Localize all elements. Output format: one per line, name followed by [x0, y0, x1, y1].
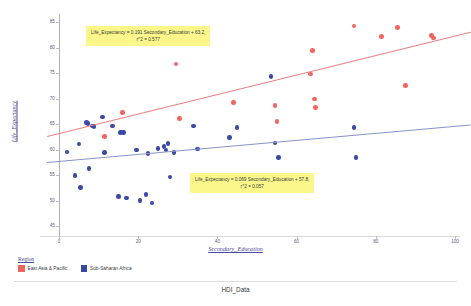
- legend-label: East Asia & Pacific: [28, 266, 68, 271]
- legend-divider: [14, 281, 457, 282]
- x-axis-title: Secondary_Education: [0, 245, 471, 252]
- y-tick-label: 60: [33, 147, 55, 152]
- y-tick-label: 80: [33, 45, 55, 50]
- x-tick-label: 0: [44, 239, 74, 244]
- legend: Region East Asia & PacificSub-Saharan Af…: [18, 256, 141, 272]
- scatter-point: [78, 185, 83, 190]
- x-tick-mark: [217, 236, 218, 239]
- y-tick-mark: [56, 150, 59, 151]
- scatter-point: [403, 83, 408, 88]
- x-axis-line: [40, 236, 460, 237]
- scatter-point: [168, 175, 173, 180]
- scatter-point: [77, 142, 82, 147]
- scatter-point: [87, 166, 92, 171]
- legend-swatch: [18, 265, 25, 272]
- scatter-point: [100, 115, 105, 120]
- y-tick-label: 55: [33, 172, 55, 177]
- scatter-point: [312, 97, 317, 102]
- x-tick-label: 20: [123, 239, 153, 244]
- chart-caption: HDI_Data: [0, 286, 471, 293]
- scatter-point: [313, 105, 318, 110]
- y-tick-mark: [56, 175, 59, 176]
- legend-title: Region: [18, 256, 141, 262]
- scatter-point: [166, 141, 171, 146]
- chart-root: 858075706560555045 020406080100 Life_Exp…: [0, 0, 471, 306]
- y-tick-label: 85: [33, 19, 55, 24]
- scatter-point: [379, 34, 384, 39]
- scatter-point: [354, 155, 359, 160]
- scatter-point: [395, 25, 400, 30]
- x-tick-mark: [59, 236, 60, 239]
- scatter-point: [352, 125, 357, 130]
- x-tick-label: 40: [202, 239, 232, 244]
- y-tick-label: 50: [33, 198, 55, 203]
- scatter-point: [177, 116, 182, 121]
- scatter-point: [273, 103, 278, 108]
- x-tick-label: 100: [440, 239, 470, 244]
- y-tick-label: 75: [33, 70, 55, 75]
- scatter-point: [134, 148, 139, 153]
- y-tick-mark: [56, 201, 59, 202]
- scatter-point: [120, 110, 125, 115]
- scatter-point: [156, 146, 161, 151]
- x-tick-mark: [455, 236, 456, 239]
- y-tick-label: 65: [33, 121, 55, 126]
- scatter-point: [121, 130, 126, 135]
- scatter-point: [144, 192, 149, 197]
- legend-swatch: [81, 265, 88, 272]
- y-tick-mark: [56, 226, 59, 227]
- scatter-point: [110, 124, 115, 129]
- scatter-point: [102, 150, 107, 155]
- y-tick-label: 70: [33, 96, 55, 101]
- scatter-point: [150, 201, 155, 206]
- annotation-blue-line2: r^2 = 0.057: [195, 183, 309, 190]
- y-axis-line: [59, 14, 60, 236]
- scatter-point: [102, 134, 107, 139]
- scatter-point: [174, 62, 179, 67]
- annotation-red-line1: Life_Expectancy = 0.191 Secondary_Educat…: [91, 29, 205, 36]
- scatter-point: [138, 198, 143, 203]
- scatter-point: [73, 173, 78, 178]
- y-tick-mark: [56, 48, 59, 49]
- annotation-box-red: Life_Expectancy = 0.191 Secondary_Educat…: [86, 26, 210, 46]
- x-tick-label: 60: [282, 239, 312, 244]
- scatter-point: [227, 135, 232, 140]
- scatter-point: [276, 155, 281, 160]
- annotation-red-line2: r^2 = 0.577: [91, 36, 205, 43]
- x-tick-mark: [297, 236, 298, 239]
- y-axis-title: Life_Expectancy: [10, 77, 17, 167]
- scatter-point: [310, 48, 315, 53]
- y-tick-mark: [56, 73, 59, 74]
- scatter-point: [235, 125, 240, 130]
- x-tick-label: 80: [361, 239, 391, 244]
- annotation-blue-line1: Life_Expectancy = 0.069 Secondary_Educat…: [195, 176, 309, 183]
- y-tick-mark: [56, 22, 59, 23]
- legend-label: Sub-Saharan Africa: [90, 266, 132, 271]
- x-tick-mark: [376, 236, 377, 239]
- y-tick-mark: [56, 124, 59, 125]
- scatter-point: [124, 196, 129, 201]
- legend-item[interactable]: Sub-Saharan Africa: [81, 265, 132, 272]
- trend-line: [47, 124, 471, 162]
- scatter-point: [269, 74, 274, 79]
- legend-item[interactable]: East Asia & Pacific: [18, 265, 68, 272]
- scatter-point: [191, 124, 196, 129]
- scatter-point: [65, 150, 70, 155]
- annotation-box-blue: Life_Expectancy = 0.069 Secondary_Educat…: [190, 173, 314, 193]
- x-tick-mark: [138, 236, 139, 239]
- legend-items: East Asia & PacificSub-Saharan Africa: [18, 265, 141, 272]
- scatter-point: [275, 119, 280, 124]
- scatter-point: [116, 194, 121, 199]
- scatter-point: [231, 100, 236, 105]
- y-tick-mark: [56, 99, 59, 100]
- y-tick-label: 45: [33, 223, 55, 228]
- scatter-point: [352, 24, 357, 29]
